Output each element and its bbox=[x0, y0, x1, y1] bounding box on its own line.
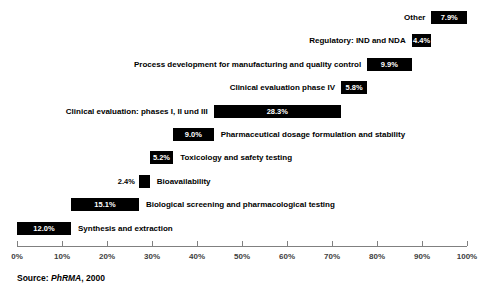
bar-row: 4.4%Regulatory: IND and NDA bbox=[0, 34, 495, 51]
axis-tick bbox=[197, 241, 198, 246]
axis-tick-label: 50% bbox=[222, 252, 262, 261]
axis-tick-label: 0% bbox=[0, 252, 37, 261]
bar-row: 28.3%Clinical evaluation: phases I, II u… bbox=[0, 105, 495, 122]
axis-tick-label: 40% bbox=[177, 252, 217, 261]
axis-tick-label: 70% bbox=[312, 252, 352, 261]
bar-rect[interactable]: 5.2% bbox=[150, 151, 173, 164]
axis-tick bbox=[467, 241, 468, 246]
axis-tick-label: 80% bbox=[357, 252, 397, 261]
bar-category-label: Regulatory: IND and NDA bbox=[309, 34, 405, 47]
source-emphasis: PhRMA bbox=[51, 273, 81, 283]
bar-rect[interactable]: 9.0% bbox=[173, 128, 214, 141]
source-note: Source: PhRMA, 2000 bbox=[17, 273, 105, 283]
axis-tick bbox=[422, 241, 423, 246]
bar-category-label: Pharmaceutical dosage formulation and st… bbox=[221, 128, 406, 141]
bar-rect[interactable]: 28.3% bbox=[214, 105, 341, 118]
axis-tick-label: 10% bbox=[42, 252, 82, 261]
axis-tick bbox=[332, 241, 333, 246]
bar-row: 5.8%Clinical evaluation phase IV bbox=[0, 81, 495, 98]
bar-row: 2.4%Bioavailability bbox=[0, 175, 495, 192]
source-suffix: , 2000 bbox=[81, 273, 105, 283]
x-axis-line bbox=[17, 246, 467, 247]
bar-category-label: Biological screening and pharmacological… bbox=[146, 198, 335, 211]
bar-rect[interactable]: 7.9% bbox=[431, 11, 467, 24]
axis-tick bbox=[107, 241, 108, 246]
chart-container: 7.9%Other4.4%Regulatory: IND and NDA9.9%… bbox=[0, 0, 495, 295]
bar-category-label: Process development for manufacturing an… bbox=[134, 58, 361, 71]
bar-row: 5.2%Toxicology and safety testing bbox=[0, 151, 495, 168]
axis-tick bbox=[287, 241, 288, 246]
bar-row: 9.9%Process development for manufacturin… bbox=[0, 58, 495, 75]
bar-rect[interactable]: 9.9% bbox=[367, 58, 412, 71]
bar-row: 9.0%Pharmaceutical dosage formulation an… bbox=[0, 128, 495, 145]
axis-tick bbox=[152, 241, 153, 246]
axis-tick-label: 30% bbox=[132, 252, 172, 261]
axis-tick bbox=[377, 241, 378, 246]
bar-category-label: Clinical evaluation phase IV bbox=[230, 81, 335, 94]
axis-tick-label: 90% bbox=[402, 252, 442, 261]
bar-rect[interactable]: 4.4% bbox=[412, 34, 432, 47]
axis-tick bbox=[62, 241, 63, 246]
bar-row: 7.9%Other bbox=[0, 11, 495, 28]
source-prefix: Source: bbox=[17, 273, 51, 283]
bar-rect[interactable]: 12.0% bbox=[17, 222, 71, 235]
axis-tick-label: 100% bbox=[447, 252, 487, 261]
plot-area: 7.9%Other4.4%Regulatory: IND and NDA9.9%… bbox=[0, 0, 495, 245]
bar-value-label: 2.4% bbox=[95, 175, 135, 188]
axis-tick-label: 60% bbox=[267, 252, 307, 261]
bar-category-label: Toxicology and safety testing bbox=[180, 151, 292, 164]
bar-row: 15.1%Biological screening and pharmacolo… bbox=[0, 198, 495, 215]
bar-category-label: Bioavailability bbox=[157, 175, 211, 188]
axis-tick bbox=[17, 241, 18, 246]
bar-rect[interactable]: 5.8% bbox=[341, 81, 367, 94]
bar-rect[interactable]: 15.1% bbox=[71, 198, 139, 211]
bar-category-label: Synthesis and extraction bbox=[78, 222, 173, 235]
bar-rect[interactable] bbox=[139, 175, 150, 188]
bar-category-label: Clinical evaluation: phases I, II und II… bbox=[66, 105, 208, 118]
axis-tick-label: 20% bbox=[87, 252, 127, 261]
bar-category-label: Other bbox=[404, 11, 425, 24]
axis-tick bbox=[242, 241, 243, 246]
bar-row: 12.0%Synthesis and extraction bbox=[0, 222, 495, 239]
